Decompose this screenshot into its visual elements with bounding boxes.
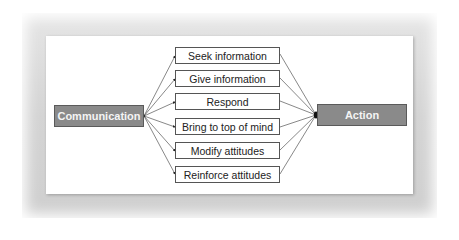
action-label: Action	[345, 109, 379, 121]
bring-to-top-of-mind-node: Bring to top of mind	[175, 118, 280, 135]
node-label: Respond	[206, 96, 248, 108]
reinforce-attitudes-node: Reinforce attitudes	[175, 166, 280, 183]
give-information-node: Give information	[175, 70, 280, 87]
communication-label: Communication	[57, 110, 140, 122]
action-node: Action	[317, 104, 407, 126]
node-label: Reinforce attitudes	[184, 169, 272, 181]
node-label: Give information	[189, 73, 265, 85]
seek-information-node: Seek information	[175, 47, 280, 64]
respond-node: Respond	[175, 93, 280, 110]
modify-attitudes-node: Modify attitudes	[175, 142, 280, 159]
communication-node: Communication	[54, 105, 144, 127]
node-label: Bring to top of mind	[182, 121, 273, 133]
node-label: Modify attitudes	[191, 145, 265, 157]
node-label: Seek information	[188, 50, 267, 62]
